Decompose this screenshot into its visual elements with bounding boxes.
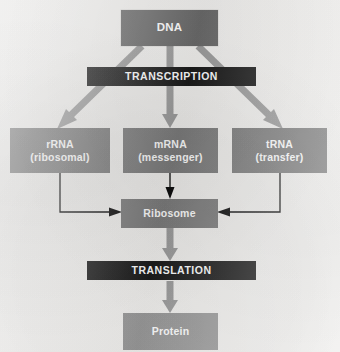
node-translation-label: TRANSLATION (132, 264, 212, 276)
node-protein: Protein (123, 313, 218, 350)
node-protein-label: Protein (152, 325, 190, 337)
node-rrna-label-primary: rRNA (46, 138, 74, 150)
arrow-trna-to-ribosome (217, 173, 280, 217)
node-transcription: TRANSCRIPTION (87, 67, 256, 86)
arrow-rrna-to-ribosome (60, 173, 122, 217)
node-rrna-label-secondary: (ribosomal) (30, 151, 89, 163)
arrow-ribosome-to-translation (162, 228, 178, 261)
node-rrna: rRNA (ribosomal) (10, 128, 110, 173)
node-mrna-label-secondary: (messenger) (138, 151, 203, 163)
node-transcription-label: TRANSCRIPTION (125, 70, 218, 82)
node-mrna: mRNA (messenger) (123, 128, 218, 173)
protein-synthesis-diagram: DNA TRANSCRIPTION rRNA (ribosomal) mRNA … (0, 0, 340, 352)
node-ribosome: Ribosome (121, 199, 218, 228)
arrow-dna-to-rrna (57, 46, 142, 129)
node-ribosome-label: Ribosome (143, 207, 195, 219)
node-trna-label-primary: tRNA (266, 138, 293, 150)
node-translation: TRANSLATION (87, 261, 256, 280)
node-mrna-label-primary: mRNA (154, 138, 187, 150)
diagram-connectors (0, 0, 340, 352)
node-trna: tRNA (transfer) (232, 128, 327, 173)
node-trna-label-secondary: (transfer) (255, 151, 303, 163)
arrow-dna-to-trna (198, 46, 283, 129)
node-dna-label: DNA (157, 21, 183, 35)
node-dna: DNA (121, 10, 218, 46)
arrow-translation-to-protein (162, 281, 178, 313)
arrow-dna-to-mrna (162, 46, 178, 128)
arrow-mrna-to-ribosome (166, 173, 175, 199)
